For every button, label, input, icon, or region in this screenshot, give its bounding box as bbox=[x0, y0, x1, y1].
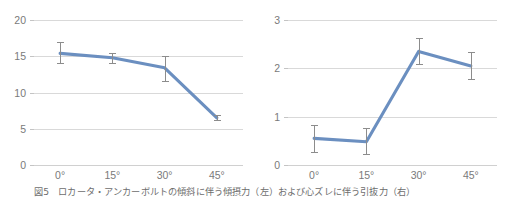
y-tick-label: 20 bbox=[14, 14, 26, 26]
y-tick-label: 0 bbox=[20, 159, 26, 171]
figure-caption-text: 図5 ロカータ・アンカーボルトの傾斜に伴う傾摂力（左）および心ズレに伴う引抜力（… bbox=[34, 186, 415, 197]
y-tick-label: 0 bbox=[274, 159, 280, 171]
figure-container: 051015200°15°30°45° 01230°15°30°45° 図5 ロ… bbox=[0, 0, 509, 197]
chart-left: 051015200°15°30°45° bbox=[0, 0, 255, 185]
y-tick-label: 2 bbox=[274, 62, 280, 74]
chart-right: 01230°15°30°45° bbox=[255, 0, 509, 185]
y-tick-label: 5 bbox=[20, 123, 26, 135]
y-tick-label: 3 bbox=[274, 14, 280, 26]
y-tick-label: 1 bbox=[274, 111, 280, 123]
figure-caption: 図5 ロカータ・アンカーボルトの傾斜に伴う傾摂力（左）および心ズレに伴う引抜力（… bbox=[0, 186, 509, 197]
y-tick-label: 10 bbox=[14, 87, 26, 99]
x-tick-label: 15° bbox=[358, 169, 374, 181]
y-tick-label: 15 bbox=[14, 50, 26, 62]
x-tick-label: 30° bbox=[157, 169, 173, 181]
x-tick-label: 0° bbox=[55, 169, 65, 181]
x-tick-label: 45° bbox=[209, 169, 225, 181]
x-tick-label: 30° bbox=[411, 169, 427, 181]
line-chart-right-svg: 01230°15°30°45° bbox=[255, 0, 509, 185]
x-tick-label: 45° bbox=[463, 169, 479, 181]
plot-area-left: 051015200°15°30°45° bbox=[0, 0, 255, 185]
series-line bbox=[314, 51, 471, 141]
x-tick-label: 0° bbox=[309, 169, 319, 181]
plot-area-right: 01230°15°30°45° bbox=[255, 0, 509, 185]
x-tick-label: 15° bbox=[104, 169, 120, 181]
series-line bbox=[60, 53, 217, 118]
line-chart-left-svg: 051015200°15°30°45° bbox=[0, 0, 255, 185]
